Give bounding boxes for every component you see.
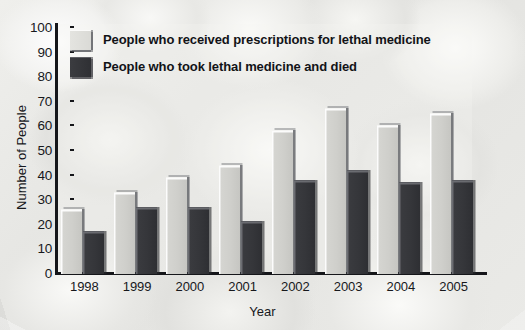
- bar-2001-series2: [241, 221, 262, 274]
- x-axis-tick-label: 2001: [216, 279, 269, 294]
- bar-2005-series2: [452, 180, 473, 274]
- y-axis-tick-label: 100: [30, 20, 52, 35]
- bar-2001-series1: [219, 165, 240, 274]
- x-axis-tick-label: 2003: [322, 279, 375, 294]
- bar-1998-series1: [61, 209, 82, 274]
- y-axis-tick-label: 60: [37, 118, 52, 133]
- bar-2003-series1: [325, 108, 346, 274]
- x-axis-tick-label: 1999: [111, 279, 164, 294]
- y-axis-tick-mark: [70, 198, 74, 200]
- x-axis-tick-label: 1998: [58, 279, 111, 294]
- x-axis-title: Year: [0, 304, 525, 319]
- legend: People who received prescriptions for le…: [70, 28, 460, 82]
- bar-2005-series1: [430, 113, 451, 274]
- bar-2004-series2: [399, 182, 420, 274]
- legend-item: People who received prescriptions for le…: [70, 28, 460, 51]
- y-axis-tick-label: 30: [37, 192, 52, 207]
- y-axis-title: Number of People: [14, 83, 29, 233]
- y-axis-tick-label: 50: [37, 143, 52, 158]
- x-axis-tick-label: 2004: [375, 279, 428, 294]
- y-axis-line: [55, 23, 58, 275]
- bar-1998-series2: [83, 231, 104, 274]
- legend-swatch-light: [70, 30, 91, 50]
- legend-item: People who took lethal medicine and died: [70, 55, 460, 78]
- legend-label: People who received prescriptions for le…: [103, 32, 431, 47]
- bar-1999-series2: [136, 207, 157, 274]
- y-axis-tick-mark: [70, 174, 74, 176]
- bar-chart: 1009080706050403020100 Number of People …: [0, 0, 525, 330]
- bar-1999-series1: [114, 192, 135, 274]
- y-axis-tick-label: 70: [37, 93, 52, 108]
- y-axis-tick-mark: [70, 149, 74, 151]
- bar-2002-series1: [272, 130, 293, 274]
- bar-2002-series2: [294, 180, 315, 274]
- legend-swatch-dark: [70, 57, 91, 77]
- bar-2004-series1: [377, 125, 398, 274]
- bar-2000-series1: [166, 177, 187, 274]
- y-axis-tick-mark: [70, 124, 74, 126]
- bar-2000-series2: [188, 207, 209, 274]
- y-axis-tick-label: 80: [37, 69, 52, 84]
- bar-2003-series2: [347, 170, 368, 274]
- x-axis-tick-label: 2002: [269, 279, 322, 294]
- y-axis-tick-label: 90: [37, 44, 52, 59]
- y-axis-tick-label: 40: [37, 167, 52, 182]
- x-axis-tick-label: 2005: [427, 279, 480, 294]
- y-axis-tick-label: 0: [45, 266, 52, 281]
- y-axis-tick-label: 10: [37, 241, 52, 256]
- legend-label: People who took lethal medicine and died: [103, 59, 357, 74]
- y-axis-tick-label: 20: [37, 216, 52, 231]
- x-axis-tick-label: 2000: [164, 279, 217, 294]
- y-axis-tick-mark: [70, 100, 74, 102]
